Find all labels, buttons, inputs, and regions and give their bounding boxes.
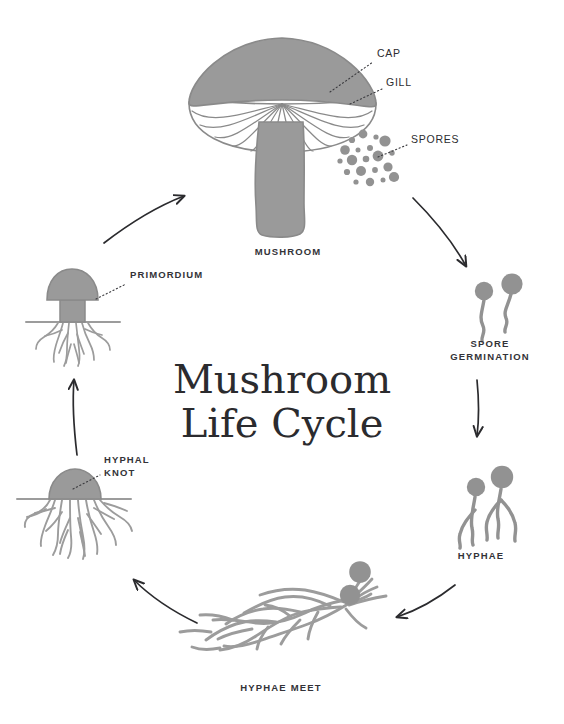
callout-label-primordium: PRIMORDIUM: [130, 269, 203, 280]
life-cycle-canvas: Mushroom Life Cycle: [0, 0, 564, 724]
title-line-2: Life Cycle: [181, 400, 384, 446]
stage-label-hyphae-meet: HYPHAE MEET: [240, 682, 321, 693]
mushroom-stem: [255, 122, 304, 237]
primordium-stem: [60, 300, 85, 322]
stage-label-spore-germination-line1: SPORE: [470, 338, 509, 349]
hyphae-meet-spore-upper: [349, 561, 371, 583]
hyphae-meet-spore-lower: [340, 585, 360, 605]
diagram-title: Mushroom Life Cycle: [173, 356, 391, 446]
title-line-1: Mushroom: [173, 356, 391, 402]
stage-label-spore-germination-line2: GERMINATION: [450, 351, 530, 362]
germinating-spore-right: [501, 273, 522, 294]
callout-label-spores: SPORES: [411, 133, 459, 145]
callout-label-hyphal-knot-line2: KNOT: [104, 467, 135, 478]
callout-label-cap: CAP: [377, 47, 401, 59]
mushroom-life-cycle-diagram: Mushroom Life Cycle: [0, 0, 564, 724]
stage-label-mushroom: MUSHROOM: [255, 246, 322, 257]
germinating-spore-left: [475, 282, 493, 300]
callout-label-hyphal-knot-line1: HYPHAL: [104, 454, 150, 465]
callout-label-gill: GILL: [386, 76, 412, 88]
stage-label-hyphae: HYPHAE: [458, 550, 505, 561]
hypha-spore-right: [491, 466, 513, 488]
hypha-spore-left: [467, 478, 485, 496]
